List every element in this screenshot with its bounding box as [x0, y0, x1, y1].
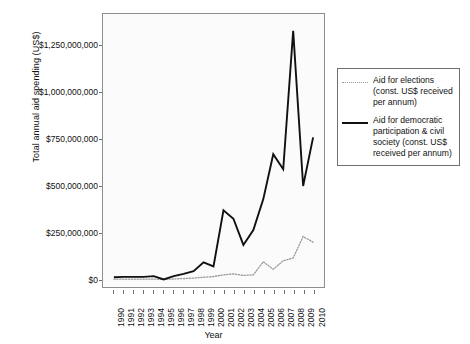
x-axis-tick-mark [214, 290, 215, 294]
x-axis-tick-mark [193, 290, 194, 294]
x-axis-tick-mark [123, 290, 124, 294]
x-axis-tick-label: 1994 [157, 308, 166, 327]
y-axis-tick-label: $250,000,000 [12, 229, 98, 238]
x-axis-tick-mark [244, 290, 245, 294]
y-axis-tick-label: $1,250,000,000 [12, 41, 98, 50]
plot-svg [103, 14, 324, 287]
y-axis-tick-label: $0 [12, 276, 98, 285]
x-axis-tick-label: 2010 [318, 308, 327, 327]
x-axis-tick-label: 2005 [267, 308, 276, 327]
solid-line-swatch-icon [342, 118, 368, 128]
x-axis-tick-label: 1998 [197, 308, 206, 327]
x-axis-tick-label: 2009 [307, 308, 316, 327]
series-line-democratic-participation [114, 31, 313, 280]
legend-item-label: Aid for elections (const. US$ received p… [373, 75, 454, 108]
x-axis-tick-label: 1996 [177, 308, 186, 327]
x-axis-tick-label: 2007 [287, 308, 296, 327]
x-axis-tick-label: 1990 [117, 308, 126, 327]
x-axis-tick-mark [314, 290, 315, 294]
x-axis-tick-label: 1995 [167, 308, 176, 327]
y-axis-tick-label: $750,000,000 [12, 135, 98, 144]
x-axis-tick-mark [183, 290, 184, 294]
x-axis-tick-label: 1997 [187, 308, 196, 327]
x-axis-tick-label: 2001 [227, 308, 236, 327]
x-axis-tick-mark [294, 290, 295, 294]
x-axis-title: Year [102, 330, 325, 340]
x-axis-tick-mark [264, 290, 265, 294]
chart-legend: Aid for elections (const. US$ received p… [337, 68, 460, 166]
legend-item-label: Aid for democratic participation & civil… [373, 115, 454, 159]
x-axis-tick-label: 2002 [237, 308, 246, 327]
x-axis-tick-mark [224, 290, 225, 294]
x-axis-tick-mark [304, 290, 305, 294]
x-axis-tick-label: 1999 [207, 308, 216, 327]
x-axis-tick-label: 2003 [247, 308, 256, 327]
x-axis-tick-label: 1991 [127, 308, 136, 327]
x-axis-tick-label: 2000 [217, 308, 226, 327]
plot-area [102, 13, 325, 288]
x-axis-tick-mark [153, 290, 154, 294]
x-axis-tick-mark [173, 290, 174, 294]
series-line-elections [114, 237, 313, 280]
x-axis-tick-mark [113, 290, 114, 294]
y-axis-tick-label: $500,000,000 [12, 182, 98, 191]
x-axis-tick-label: 1993 [147, 308, 156, 327]
legend-item-elections: Aid for elections (const. US$ received p… [342, 75, 454, 108]
x-axis-tick-label: 2008 [297, 308, 306, 327]
chart-figure: Total annual aid spending (US$) $0$250,0… [0, 0, 470, 344]
x-axis-tick-mark [133, 290, 134, 294]
x-axis-tick-mark [284, 290, 285, 294]
x-axis-tick-mark [163, 290, 164, 294]
x-axis-tick-mark [143, 290, 144, 294]
x-axis-tick-mark [274, 290, 275, 294]
dotted-line-swatch-icon [342, 78, 368, 88]
x-axis-tick-mark [234, 290, 235, 294]
y-axis-tick-labels: $0$250,000,000$500,000,000$750,000,000$1… [10, 0, 98, 344]
x-axis-tick-label: 1992 [137, 308, 146, 327]
x-axis-tick-mark [254, 290, 255, 294]
y-axis-tick-label: $1,000,000,000 [12, 88, 98, 97]
legend-item-democratic-participation: Aid for democratic participation & civil… [342, 115, 454, 159]
x-axis-tick-label: 2004 [257, 308, 266, 327]
x-axis-tick-label: 2006 [277, 308, 286, 327]
x-axis-tick-mark [203, 290, 204, 294]
